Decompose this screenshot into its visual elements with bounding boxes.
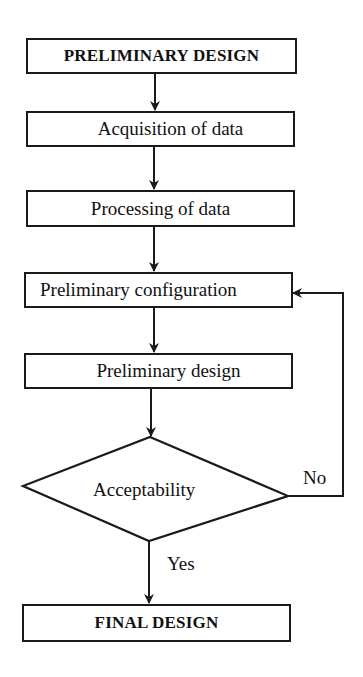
node-preliminary-design-start: PRELIMINARY DESIGN bbox=[26, 38, 297, 74]
node-processing-of-data: Processing of data bbox=[26, 190, 295, 227]
node-acquisition-of-data: Acquisition of data bbox=[26, 111, 295, 147]
node-label: Acquisition of data bbox=[98, 118, 244, 140]
node-preliminary-configuration: Preliminary configuration bbox=[24, 272, 293, 308]
node-label: Processing of data bbox=[91, 198, 230, 220]
node-label: Preliminary configuration bbox=[40, 279, 237, 301]
node-acceptability: Acceptability bbox=[93, 479, 195, 501]
node-label: Preliminary design bbox=[96, 360, 240, 382]
arrow-no-feedback bbox=[288, 293, 343, 496]
flowchart-connectors bbox=[0, 0, 363, 677]
edge-label-yes: Yes bbox=[167, 553, 195, 575]
node-final-design: FINAL DESIGN bbox=[22, 604, 291, 642]
node-preliminary-design: Preliminary design bbox=[24, 353, 293, 389]
node-label: FINAL DESIGN bbox=[95, 613, 219, 633]
node-label: PRELIMINARY DESIGN bbox=[64, 46, 260, 66]
edge-label-no: No bbox=[303, 467, 326, 489]
